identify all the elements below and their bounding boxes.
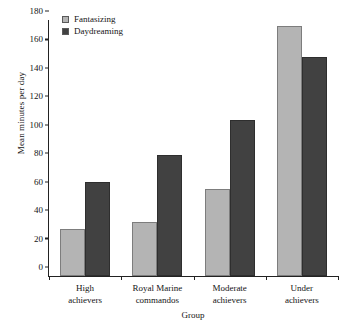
legend-label: Daydreaming xyxy=(74,27,123,36)
y-tick: 60 xyxy=(34,177,49,186)
y-tick: 120 xyxy=(30,92,50,101)
y-tick-label: 60 xyxy=(34,177,45,186)
bar xyxy=(157,155,182,276)
bar xyxy=(85,182,110,276)
x-tick-mark xyxy=(338,276,339,280)
x-axis-category-label-line: achievers xyxy=(285,295,319,307)
x-axis-category-label: Moderateachievers xyxy=(212,283,246,306)
bar xyxy=(302,57,327,276)
x-tick-mark xyxy=(121,276,122,280)
bar xyxy=(205,189,230,276)
y-tick: 140 xyxy=(30,63,50,72)
x-axis-category-label-line: Under xyxy=(285,283,319,295)
legend-label: Fantasizing xyxy=(74,15,116,24)
x-tick-mark xyxy=(266,276,267,280)
bar xyxy=(60,229,85,276)
y-tick-label: 160 xyxy=(30,35,46,44)
bar-chart: Mean minutes per day 0204060801001201401… xyxy=(0,0,347,328)
y-tick: 160 xyxy=(30,35,50,44)
legend-swatch-icon xyxy=(62,28,69,35)
y-tick: 180 xyxy=(30,7,50,16)
plot-area: 020406080100120140160180 HighachieversRo… xyxy=(48,20,338,277)
y-tick-label: 180 xyxy=(30,7,46,16)
x-axis-category-label-line: Moderate xyxy=(212,283,246,295)
x-tick-mark xyxy=(194,276,195,280)
y-axis-title: Mean minutes per day xyxy=(16,48,26,178)
x-axis-category-label: Highachievers xyxy=(68,283,102,306)
y-tick-label: 40 xyxy=(34,206,45,215)
legend: FantasizingDaydreaming xyxy=(62,14,123,38)
x-axis-category-label-line: achievers xyxy=(212,295,246,307)
x-axis-title: Group xyxy=(48,310,338,320)
legend-item: Fantasizing xyxy=(62,14,123,25)
x-axis-category-label-line: High xyxy=(68,283,102,295)
bar xyxy=(230,120,255,276)
y-tick: 20 xyxy=(34,234,49,243)
y-tick-label: 100 xyxy=(30,120,46,129)
x-tick-mark xyxy=(49,276,50,280)
y-tick: 100 xyxy=(30,120,50,129)
y-tick-label: 120 xyxy=(30,92,46,101)
legend-swatch-icon xyxy=(62,16,69,23)
bars-layer xyxy=(49,20,338,276)
y-tick: 0 xyxy=(39,263,50,272)
bar xyxy=(277,26,302,276)
x-axis-category-label-line: Royal Marine xyxy=(133,283,183,295)
x-axis-category-label-line: achievers xyxy=(68,295,102,307)
y-tick: 40 xyxy=(34,206,49,215)
x-axis-category-label-line: commandos xyxy=(133,295,183,307)
y-tick-label: 20 xyxy=(34,234,45,243)
y-tick-mark xyxy=(45,10,49,11)
y-tick-label: 80 xyxy=(34,149,45,158)
y-tick: 80 xyxy=(34,149,49,158)
x-axis-category-label: Royal Marinecommandos xyxy=(133,283,183,306)
y-tick-label: 140 xyxy=(30,63,46,72)
bar xyxy=(132,222,157,276)
legend-item: Daydreaming xyxy=(62,26,123,37)
x-axis-category-label: Underachievers xyxy=(285,283,319,306)
